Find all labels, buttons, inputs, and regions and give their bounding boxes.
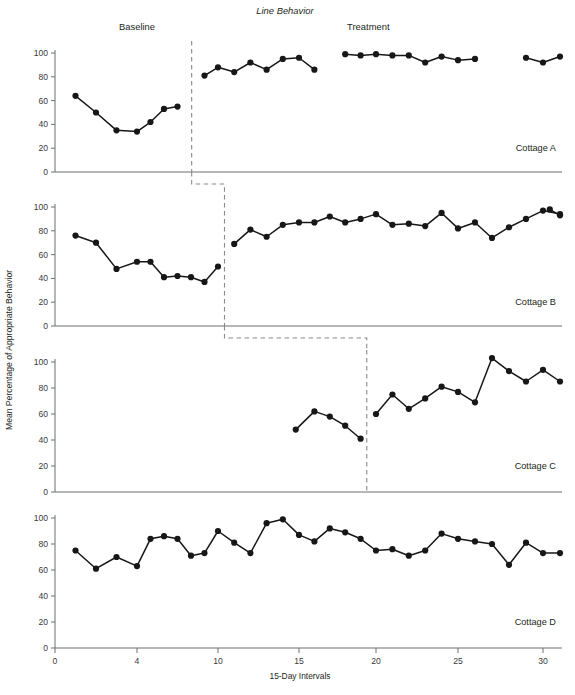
data-point <box>296 532 302 538</box>
data-point <box>231 241 237 247</box>
data-point <box>113 266 119 272</box>
data-point <box>439 531 445 537</box>
step-connector-2 <box>224 326 366 350</box>
data-point <box>134 128 140 134</box>
data-point <box>231 540 237 546</box>
data-point <box>296 219 302 225</box>
data-point <box>389 222 395 228</box>
data-point <box>342 219 348 225</box>
x-tick-label-15: 15 <box>294 656 304 666</box>
y-tick-label-4-60: 60 <box>38 565 48 575</box>
data-point <box>134 259 140 265</box>
panel-tag-cottage-d: Cottage D <box>515 617 557 627</box>
data-point <box>422 223 428 229</box>
data-point <box>247 59 253 65</box>
y-tick-label-1-20: 20 <box>38 143 48 153</box>
data-point <box>373 211 379 217</box>
data-point <box>264 67 270 73</box>
series-line-cottage-a-baseline-0 <box>76 96 178 132</box>
data-point <box>406 553 412 559</box>
data-point <box>280 222 286 228</box>
y-tick-label-3-40: 40 <box>38 435 48 445</box>
data-point <box>134 563 140 569</box>
data-point <box>557 212 563 218</box>
data-point <box>296 55 302 61</box>
data-point <box>215 528 221 534</box>
data-point <box>93 240 99 246</box>
chart-figure: Line BehaviorBaselineTreatmentMean Perce… <box>0 0 575 695</box>
data-point <box>161 274 167 280</box>
data-point <box>342 423 348 429</box>
data-point <box>280 56 286 62</box>
data-point <box>506 368 512 374</box>
data-point <box>422 59 428 65</box>
y-tick-label-2-0: 0 <box>43 321 48 331</box>
data-point <box>439 210 445 216</box>
y-tick-label-4-80: 80 <box>38 539 48 549</box>
x-tick-label-20: 20 <box>371 656 381 666</box>
data-point <box>540 207 546 213</box>
data-point <box>389 52 395 58</box>
data-point <box>174 103 180 109</box>
y-tick-label-1-40: 40 <box>38 119 48 129</box>
y-tick-label-3-80: 80 <box>38 383 48 393</box>
data-point <box>523 378 529 384</box>
data-point <box>373 411 379 417</box>
data-point <box>557 378 563 384</box>
y-tick-label-2-100: 100 <box>34 202 49 212</box>
data-point <box>147 119 153 125</box>
data-point <box>188 553 194 559</box>
data-point <box>557 550 563 556</box>
data-point <box>547 206 553 212</box>
x-axis-title: 15-Day Intervals <box>270 671 331 681</box>
data-point <box>293 427 299 433</box>
data-point <box>174 536 180 542</box>
data-point <box>147 259 153 265</box>
data-point <box>439 53 445 59</box>
data-point <box>327 414 333 420</box>
data-point <box>489 541 495 547</box>
data-point <box>506 562 512 568</box>
y-tick-label-1-0: 0 <box>43 167 48 177</box>
data-point <box>231 69 237 75</box>
data-point <box>523 55 529 61</box>
y-tick-label-3-60: 60 <box>38 409 48 419</box>
y-tick-label-1-80: 80 <box>38 72 48 82</box>
data-point <box>373 547 379 553</box>
data-point <box>311 538 317 544</box>
data-point <box>540 59 546 65</box>
data-point <box>389 546 395 552</box>
chart-svg: Line BehaviorBaselineTreatmentMean Perce… <box>0 0 575 695</box>
data-point <box>358 536 364 542</box>
data-point <box>201 73 207 79</box>
data-point <box>455 536 461 542</box>
data-point <box>389 391 395 397</box>
data-point <box>523 216 529 222</box>
data-point <box>113 554 119 560</box>
data-point <box>472 219 478 225</box>
series-line-cottage-d-continuous-0 <box>76 519 561 568</box>
data-point <box>161 533 167 539</box>
data-point <box>540 367 546 373</box>
y-tick-label-2-80: 80 <box>38 226 48 236</box>
y-tick-label-4-100: 100 <box>34 513 49 523</box>
data-point <box>201 279 207 285</box>
data-point <box>489 355 495 361</box>
panel-tag-cottage-b: Cottage B <box>515 297 556 307</box>
data-point <box>311 408 317 414</box>
data-point <box>342 529 348 535</box>
data-point <box>311 219 317 225</box>
data-point <box>422 547 428 553</box>
data-point <box>174 273 180 279</box>
data-point <box>280 516 286 522</box>
data-point <box>215 263 221 269</box>
data-point <box>358 436 364 442</box>
x-tick-label-4: 4 <box>135 656 140 666</box>
panel-tag-cottage-a: Cottage A <box>516 143 557 153</box>
data-point <box>439 384 445 390</box>
data-point <box>455 389 461 395</box>
y-tick-label-3-100: 100 <box>34 357 49 367</box>
panel-tag-cottage-c: Cottage C <box>515 461 557 471</box>
data-point <box>247 550 253 556</box>
data-point <box>489 235 495 241</box>
